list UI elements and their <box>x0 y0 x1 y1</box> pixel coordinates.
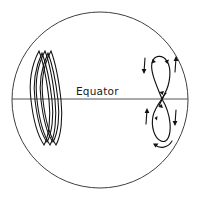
flow-arrow-lower-left <box>145 108 150 124</box>
equatorial-flux-diagram: Equator <box>0 0 199 200</box>
flow-arrow-lower-right <box>173 110 178 126</box>
flux-loop-1 <box>30 51 49 145</box>
loop-arrowhead-lower-left <box>155 116 158 121</box>
equator-label: Equator <box>76 85 119 97</box>
left-loop-bundle <box>30 51 61 145</box>
right-figure-eight-loop <box>142 56 179 148</box>
diagram-canvas: Equator <box>0 0 199 200</box>
flow-arrow-upper-left <box>142 58 147 74</box>
